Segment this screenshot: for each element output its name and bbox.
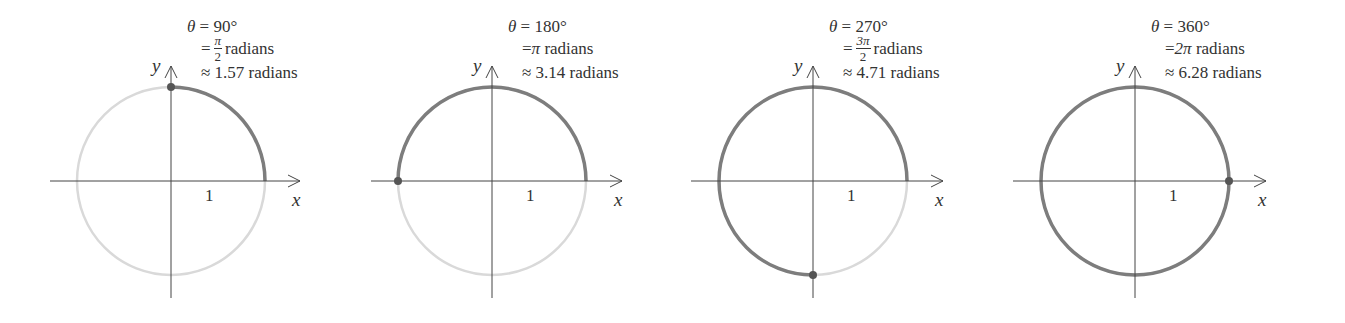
radian-fraction: 3π2 [856,34,871,63]
theta-symbol: θ [508,17,516,36]
y-axis-label: y [473,56,481,75]
radians-unit: radians [544,39,593,58]
tick-label-1: 1 [1169,187,1178,204]
theta-symbol: θ [1151,17,1159,36]
panel-270 [691,66,943,298]
terminal-point [167,83,175,91]
angle-arc [171,87,265,181]
x-axis-label: x [614,190,622,209]
fraction-denominator: 2 [860,49,867,63]
radians-unit: radians [874,39,923,58]
angle-radians-exact: =3π2radians [843,36,923,65]
theta-symbol: θ [187,17,195,36]
terminal-point [1225,177,1233,185]
equals-sign: = [201,39,211,58]
panel-90 [50,66,300,298]
angle-radians-approx: ≈ 4.71 radians [843,64,940,81]
fraction-numerator: 3π [856,34,871,49]
radians-unit: radians [1196,39,1245,58]
angle-degrees: θ = 180° [508,18,567,35]
tick-label-1: 1 [526,187,535,204]
angle-radians-approx: ≈ 3.14 radians [522,64,619,81]
fraction-numerator: π [214,34,223,49]
angle-degrees: θ = 360° [1151,18,1210,35]
tick-label-1: 1 [205,187,214,204]
terminal-point [809,271,817,279]
tick-label-1: 1 [847,187,856,204]
radian-value: 2π [1175,39,1192,58]
angle-radians-exact: =π radians [522,40,593,57]
y-axis-label: y [794,56,802,75]
panel-180 [371,66,622,298]
radians-unit: radians [225,39,274,58]
angle-radians-approx: ≈ 1.57 radians [201,64,298,81]
equals-sign: = [1165,39,1175,58]
equals-sign: = [843,39,853,58]
angle-radians-exact: =π2radians [201,36,274,65]
terminal-point [394,177,402,185]
radian-value: π [532,39,541,58]
y-axis-label: y [152,56,160,75]
radian-fraction: π2 [214,34,223,63]
x-axis-label: x [935,190,943,209]
theta-symbol: θ [829,17,837,36]
angle-degrees: θ = 90° [187,18,237,35]
y-axis-label: y [1116,56,1124,75]
fraction-denominator: 2 [215,49,222,63]
angle-radians-exact: =2π radians [1165,40,1245,57]
x-axis-label: x [292,190,300,209]
angle-radians-approx: ≈ 6.28 radians [1165,64,1262,81]
x-axis-label: x [1258,190,1266,209]
equals-sign: = [522,39,532,58]
panel-360 [1013,66,1266,298]
